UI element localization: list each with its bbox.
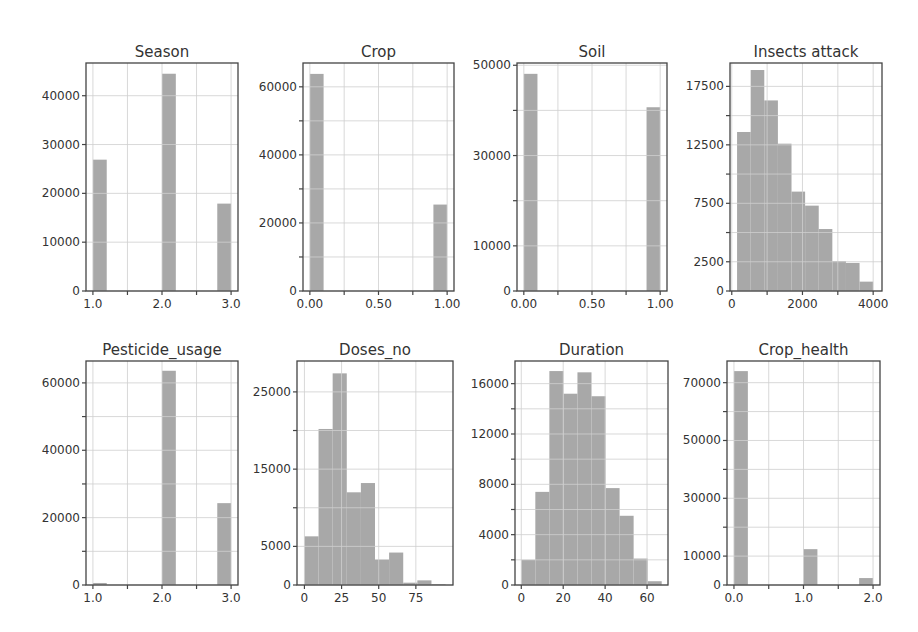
histogram-bar: [162, 74, 176, 291]
histogram-bar: [859, 578, 873, 585]
y-axis: 010000200003000040000: [42, 89, 86, 298]
x-tick-label: 1.00: [434, 297, 461, 311]
y-tick-label: 20000: [42, 511, 80, 525]
histogram-panel-doses-no: 0255075050001500025000Doses_no: [253, 341, 453, 605]
x-tick-label: 3.0: [222, 297, 241, 311]
y-tick-label: 25000: [253, 385, 291, 399]
x-tick-label: 0.50: [579, 297, 606, 311]
x-axis: 0255075: [301, 585, 424, 605]
histogram-bar: [93, 160, 107, 291]
histogram-bar: [620, 516, 634, 585]
y-tick-label: 12500: [686, 138, 724, 152]
histogram-bar: [792, 192, 806, 291]
x-tick-label: 0.50: [365, 297, 392, 311]
panel-title: Insects attack: [754, 43, 859, 61]
y-axis: 010000300005000070000: [683, 376, 727, 592]
x-tick-label: 2.0: [863, 591, 882, 605]
histogram-bar: [647, 107, 661, 291]
x-tick-label: 2.0: [152, 297, 171, 311]
histogram-bar: [375, 560, 389, 585]
histogram-bar: [846, 263, 860, 291]
x-tick-label: 2000: [787, 297, 818, 311]
x-tick-label: 2.0: [152, 591, 171, 605]
histogram-panel-insects-attack: 0200040000250075001250017500Insects atta…: [686, 43, 889, 311]
y-tick-label: 15000: [253, 462, 291, 476]
x-tick-label: 4000: [858, 297, 889, 311]
histogram-bar: [577, 372, 591, 585]
y-tick-label: 12000: [471, 427, 509, 441]
y-tick-label: 0: [289, 284, 297, 298]
y-tick-label: 10000: [683, 549, 721, 563]
x-tick-label: 0.00: [510, 297, 537, 311]
x-tick-label: 60: [639, 591, 654, 605]
histogram-bar: [433, 205, 447, 291]
histogram-bar: [751, 70, 765, 291]
x-tick-label: 25: [334, 591, 349, 605]
y-tick-label: 0: [503, 284, 511, 298]
y-axis: 0100003000050000: [473, 58, 517, 298]
panel-title: Crop_health: [759, 341, 849, 360]
histogram-bar: [521, 560, 535, 585]
x-tick-label: 1.0: [794, 591, 813, 605]
y-tick-label: 0: [72, 284, 80, 298]
histogram-bar: [737, 132, 751, 291]
histogram-bar: [333, 373, 347, 585]
y-tick-label: 30000: [473, 149, 511, 163]
histogram-bar: [524, 74, 538, 291]
x-tick-label: 0.00: [297, 297, 324, 311]
x-axis: 0.01.02.0: [724, 585, 882, 605]
y-tick-label: 8000: [478, 477, 509, 491]
panel-title: Crop: [361, 43, 396, 61]
y-tick-label: 30000: [42, 138, 80, 152]
histogram-bar: [549, 371, 563, 585]
y-tick-label: 60000: [42, 376, 80, 390]
histogram-bar: [162, 371, 176, 585]
x-tick-label: 1.0: [83, 591, 102, 605]
x-axis: 1.02.03.0: [83, 291, 240, 311]
histogram-bar: [606, 488, 620, 585]
y-tick-label: 30000: [683, 491, 721, 505]
histogram-panel-duration: 02040600400080001200016000Duration: [471, 341, 668, 605]
y-tick-label: 0: [716, 284, 724, 298]
histogram-bar: [347, 492, 361, 585]
x-tick-label: 50: [371, 591, 386, 605]
histogram-grid-svg: 1.02.03.0010000200003000040000Season0.00…: [0, 0, 918, 632]
histogram-bar: [389, 553, 403, 585]
x-tick-label: 40: [597, 591, 612, 605]
x-tick-label: 1.0: [83, 297, 102, 311]
y-tick-label: 0: [72, 578, 80, 592]
histogram-bar: [804, 549, 818, 585]
y-tick-label: 16000: [471, 377, 509, 391]
y-tick-label: 2500: [693, 255, 724, 269]
histogram-bar: [634, 559, 648, 585]
x-tick-label: 3.0: [222, 591, 241, 605]
histogram-bar: [592, 396, 606, 585]
panel-title: Pesticide_usage: [102, 341, 222, 360]
histogram-panel-crop: 0.000.501.000200004000060000Crop: [259, 43, 461, 311]
histogram-bar: [417, 580, 431, 585]
y-tick-label: 0: [501, 578, 509, 592]
histogram-bar: [319, 429, 333, 585]
x-tick-label: 75: [408, 591, 423, 605]
histogram-bar: [310, 74, 324, 291]
histogram-bar: [361, 483, 375, 585]
x-axis: 1.02.03.0: [83, 585, 240, 605]
y-tick-label: 10000: [42, 235, 80, 249]
x-tick-label: 20: [556, 591, 571, 605]
panel-title: Soil: [578, 43, 605, 61]
x-tick-label: 1.00: [647, 297, 674, 311]
y-tick-label: 60000: [259, 80, 297, 94]
histogram-panel-crop-health: 0.01.02.0010000300005000070000Crop_healt…: [683, 341, 883, 605]
y-axis: 0200004000060000: [42, 376, 86, 592]
panel-title: Season: [135, 43, 189, 61]
x-tick-label: 0: [301, 591, 309, 605]
y-tick-label: 17500: [686, 79, 724, 93]
y-tick-label: 70000: [683, 376, 721, 390]
x-axis: 0204060: [517, 585, 654, 605]
x-axis: 0.000.501.00: [510, 291, 673, 311]
histogram-grid-figure: 1.02.03.0010000200003000040000Season0.00…: [0, 0, 918, 632]
x-axis: 0.000.501.00: [297, 291, 461, 311]
y-tick-label: 50000: [683, 433, 721, 447]
histogram-panel-soil: 0.000.501.000100003000050000Soil: [473, 43, 674, 311]
y-tick-label: 40000: [42, 443, 80, 457]
